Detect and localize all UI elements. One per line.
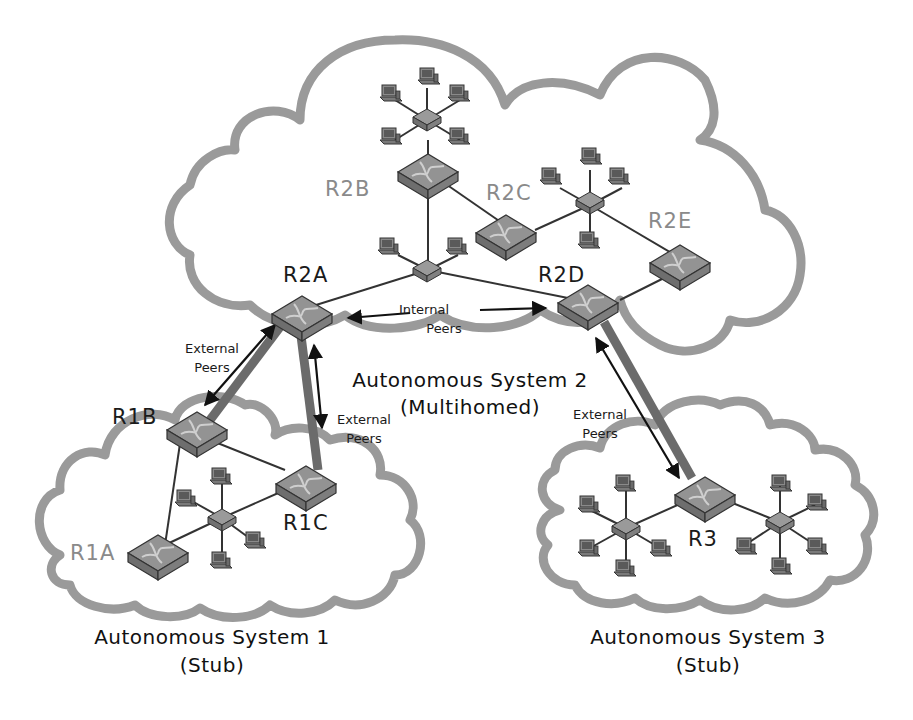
as3-subtitle: (Stub): [676, 653, 741, 677]
router-label-r2b: R2B: [325, 177, 370, 201]
router-label-r2d: R2D: [538, 263, 585, 287]
as2-title: Autonomous System 2: [352, 368, 588, 392]
router-label-r2a: R2A: [283, 263, 328, 287]
router-label-r2c: R2C: [486, 181, 532, 205]
external-peers-label-3-line2: Peers: [582, 426, 618, 441]
as1-subtitle: (Stub): [180, 653, 245, 677]
router-label-r1c: R1C: [283, 511, 329, 535]
router-label-r2e: R2E: [648, 209, 692, 233]
router-label-r1a: R1A: [70, 541, 115, 565]
bgp-topology-diagram: R2B R2C R2E R2A R2D R1B R1C R1A R3 Inter…: [0, 0, 913, 720]
external-peers-label-3-line1: External: [573, 407, 627, 422]
external-peers-label-2-line2: Peers: [346, 431, 382, 446]
internal-peers-label-line1: Internal: [399, 302, 449, 317]
as2-subtitle: (Multihomed): [400, 395, 540, 419]
as1-title: Autonomous System 1: [94, 625, 330, 649]
external-peers-label-2-line1: External: [337, 412, 391, 427]
cloud-as1: [39, 397, 420, 618]
internal-peers-label-line2: Peers: [426, 321, 462, 336]
router-label-r1b: R1B: [112, 405, 157, 429]
router-label-r3: R3: [688, 527, 718, 551]
as3-title: Autonomous System 3: [590, 625, 826, 649]
external-peers-label-1-line1: External: [185, 341, 239, 356]
external-peers-label-1-line2: Peers: [194, 360, 230, 375]
